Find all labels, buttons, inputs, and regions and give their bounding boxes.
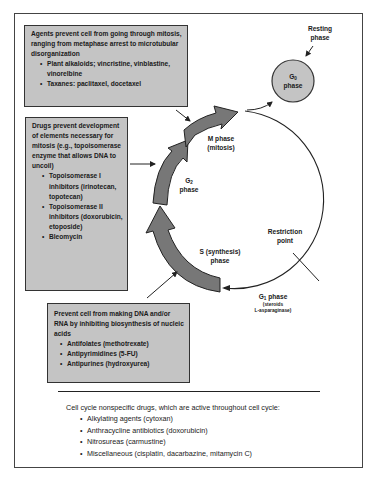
g2-label-line2: phase <box>170 186 208 195</box>
list-item: Topoisomerase II inhibitors (doxorubicin… <box>41 202 123 232</box>
g0-label-line1: G0 <box>275 73 311 82</box>
nonspecific-drugs-section: Cell cycle nonspecific drugs, which are … <box>66 402 280 459</box>
restriction-point-mark <box>293 253 319 281</box>
restriction-line1: Restriction <box>260 228 310 237</box>
nonspecific-list: Alkylating agents (cytoxan) Anthracyclin… <box>66 413 280 459</box>
resting-label-line1: Resting <box>300 25 340 34</box>
g0-label-line2: phase <box>275 82 311 91</box>
list-item: Taxanes: paclitaxel, docetaxel <box>39 79 183 89</box>
s-phase-line1: S (synthesis) <box>190 248 250 257</box>
s-phase-label: S (synthesis) phase <box>190 248 250 265</box>
m-phase-line2: (mitosis) <box>196 144 246 153</box>
resting-arrow <box>306 46 313 56</box>
g2-agents-description: Drugs prevent development of elements ne… <box>32 121 123 171</box>
g1-phase-label: G1 phase (steroids L-asparaginase) <box>240 293 306 314</box>
list-item: Anthracycline antibiotics (doxorubicin) <box>80 425 280 436</box>
to-g0-arrow <box>247 102 272 110</box>
list-item: Bleomycin <box>41 232 123 242</box>
g1-label-line1: G1 phase <box>240 293 306 302</box>
g0-phase-label: G0 phase <box>275 73 311 90</box>
nonspecific-heading: Cell cycle nonspecific drugs, which are … <box>66 402 280 413</box>
list-item: Miscellaneous (cisplatin, dacarbazine, m… <box>80 448 280 459</box>
mitosis-agents-list: Plant alkaloids; vincristine, vinblastin… <box>39 59 183 89</box>
resting-label-line2: phase <box>300 34 340 43</box>
g1-note-line2: L-asparaginase) <box>240 308 306 314</box>
m-phase-label: M phase (mitosis) <box>196 135 246 152</box>
pointer-box3 <box>147 272 177 298</box>
mitosis-agents-description: Agents prevent cell from going through m… <box>31 29 183 59</box>
list-item: Topoisomerase I inhibitors (irinotecan, … <box>41 171 123 201</box>
separator-line <box>58 391 320 392</box>
list-item: Alkylating agents (cytoxan) <box>80 413 280 424</box>
m-phase-line1: M phase <box>196 135 246 144</box>
g2-phase-arrow <box>153 140 188 205</box>
list-item: Plant alkaloids; vincristine, vinblastin… <box>39 59 183 79</box>
g2-phase-label: G2 phase <box>170 177 208 194</box>
list-item: Antipyrimidines (5-FU) <box>59 349 185 359</box>
s-phase-agents-description: Prevent cell from making DNA and/or RNA … <box>54 309 185 339</box>
list-item: Nitrosureas (carmustine) <box>80 436 280 447</box>
s-phase-agents-list: Antifolates (methotrexate) Antipyrimidin… <box>59 339 185 369</box>
g2-label-line1: G2 <box>170 177 208 186</box>
s-phase-line2: phase <box>190 257 250 266</box>
list-item: Antipurines (hydroxyurea) <box>59 359 185 369</box>
resting-phase-label: Resting phase <box>300 25 340 42</box>
g1-arrowhead-icon <box>222 285 230 291</box>
s-phase-agents-box: Prevent cell from making DNA and/or RNA … <box>47 303 190 383</box>
g2-agents-list: Topoisomerase I inhibitors (irinotecan, … <box>41 171 123 242</box>
restriction-line2: point <box>260 237 310 246</box>
mitosis-agents-box: Agents prevent cell from going through m… <box>24 25 188 107</box>
pointer-box1 <box>176 110 190 121</box>
list-item: Antifolates (methotrexate) <box>59 339 185 349</box>
restriction-point-label: Restriction point <box>260 228 310 245</box>
g2-agents-box: Drugs prevent development of elements ne… <box>25 117 128 291</box>
